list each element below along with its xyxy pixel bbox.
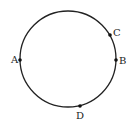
circle-diagram: ABCD (0, 0, 131, 125)
circle (20, 11, 116, 107)
point-c-label: C (113, 27, 121, 38)
point-d-label: D (76, 110, 84, 121)
point-a-label: A (10, 54, 19, 65)
point-c-dot (108, 33, 112, 37)
point-a-dot (18, 58, 22, 62)
point-d-dot (78, 104, 82, 108)
point-b-dot (114, 58, 118, 62)
point-b-label: B (119, 55, 126, 66)
